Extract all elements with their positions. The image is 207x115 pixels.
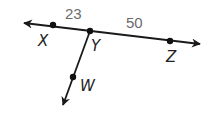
length-label-xy: 23 bbox=[65, 5, 82, 22]
label-x: X bbox=[37, 32, 49, 50]
label-w: W bbox=[80, 77, 96, 95]
length-label-yz: 50 bbox=[126, 14, 143, 31]
point-w bbox=[70, 74, 76, 80]
label-y: Y bbox=[91, 37, 102, 55]
geometry-diagram: X Y Z W 23 50 bbox=[0, 0, 207, 115]
point-y bbox=[87, 28, 93, 34]
point-z bbox=[167, 38, 173, 44]
label-z: Z bbox=[165, 48, 177, 66]
point-x bbox=[50, 22, 56, 28]
